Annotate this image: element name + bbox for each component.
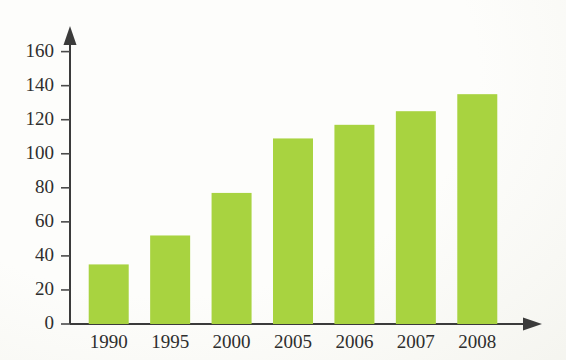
- chart-canvas: 020406080100120140160 199019952000200520…: [0, 0, 566, 360]
- bar-2007: [396, 111, 436, 324]
- bar-chart: 020406080100120140160 199019952000200520…: [0, 0, 566, 360]
- arrow-right-icon: [523, 318, 542, 331]
- y-tick-label: 20: [35, 278, 54, 299]
- x-tick-label: 1990: [90, 331, 128, 352]
- bar-rect: [334, 125, 374, 324]
- y-axis: [64, 26, 77, 324]
- y-tick-label: 100: [26, 142, 55, 163]
- y-tick-label: 120: [26, 108, 55, 129]
- bar-rect: [89, 264, 129, 324]
- bar-2000: [212, 193, 252, 324]
- bar-rect: [273, 138, 313, 324]
- x-tick-label: 2005: [274, 331, 312, 352]
- x-tick-label: 2000: [213, 331, 251, 352]
- y-tick-label: 140: [26, 74, 55, 95]
- x-tick-label: 2008: [458, 331, 496, 352]
- bar-1995: [150, 235, 190, 324]
- y-tick-label: 80: [35, 176, 54, 197]
- y-tick-label: 40: [35, 244, 54, 265]
- bar-rect: [457, 94, 497, 324]
- x-tick-label: 2007: [397, 331, 435, 352]
- x-tick-label: 2006: [335, 331, 373, 352]
- bar-rect: [396, 111, 436, 324]
- bar-series: [89, 94, 498, 324]
- bar-2006: [334, 125, 374, 324]
- bar-1990: [89, 264, 129, 324]
- bar-2008: [457, 94, 497, 324]
- y-tick-label: 160: [26, 40, 55, 61]
- y-tick-label: 0: [45, 312, 55, 333]
- y-tick-group: 020406080100120140160: [26, 40, 71, 333]
- chart-page: 020406080100120140160 199019952000200520…: [0, 0, 566, 360]
- x-tick-group: 1990199520002005200620072008: [90, 331, 497, 352]
- arrow-up-icon: [64, 26, 77, 45]
- bar-2005: [273, 138, 313, 324]
- bar-rect: [212, 193, 252, 324]
- bar-rect: [150, 235, 190, 324]
- x-tick-label: 1995: [151, 331, 189, 352]
- y-tick-label: 60: [35, 210, 54, 231]
